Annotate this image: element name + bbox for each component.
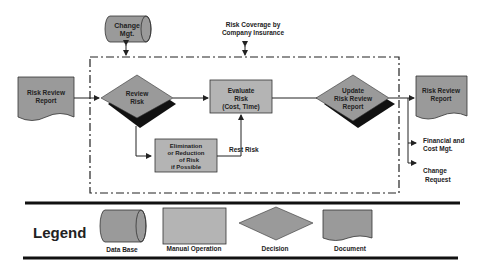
- legend-title: Legend: [33, 224, 86, 241]
- svg-text:(Cost, Time): (Cost, Time): [222, 103, 259, 111]
- svg-text:of Risk: of Risk: [179, 157, 200, 163]
- update-branch-line: [408, 98, 416, 163]
- svg-text:Report: Report: [343, 103, 365, 111]
- risk-review-flowchart: Change Mgt. Risk Coverage by Company Ins…: [0, 0, 485, 270]
- change-mgt-label-1: Change: [114, 22, 140, 30]
- svg-text:Risk: Risk: [234, 95, 248, 102]
- svg-text:Report: Report: [36, 97, 58, 105]
- svg-text:Company Insurance: Company Insurance: [222, 29, 285, 37]
- svg-text:Data Base: Data Base: [106, 246, 138, 253]
- svg-text:Manual Operation: Manual Operation: [167, 245, 222, 253]
- output-risk-review-report[interactable]: Risk Review Report: [416, 76, 467, 119]
- input-risk-review-report[interactable]: Risk Review Report: [18, 77, 74, 121]
- svg-text:Evaluate: Evaluate: [228, 87, 255, 94]
- svg-text:Financial and: Financial and: [423, 137, 465, 144]
- change-request-label: Change Request: [423, 167, 451, 184]
- svg-text:Risk Review: Risk Review: [334, 95, 373, 102]
- evaluate-risk-box[interactable]: Evaluate Risk (Cost, Time): [210, 80, 272, 113]
- svg-text:Elimination: Elimination: [170, 143, 203, 149]
- legend-database: Data Base: [100, 210, 146, 253]
- svg-text:or Reduction: or Reduction: [168, 150, 205, 156]
- update-report-decision[interactable]: Update Risk Review Report: [316, 75, 395, 128]
- risk-coverage-label: Risk Coverage by Company Insurance: [222, 21, 285, 37]
- legend-document: Document: [323, 210, 372, 252]
- svg-text:if Possible: if Possible: [171, 164, 202, 170]
- svg-text:Risk Review: Risk Review: [27, 89, 66, 96]
- svg-text:Review: Review: [126, 90, 149, 97]
- svg-text:Risk: Risk: [130, 98, 144, 105]
- svg-text:Risk Review: Risk Review: [422, 87, 461, 94]
- svg-text:Change: Change: [423, 167, 447, 175]
- svg-text:Request: Request: [425, 176, 451, 184]
- svg-text:Cost Mgt.: Cost Mgt.: [423, 145, 453, 153]
- financial-cost-mgt-label: Financial and Cost Mgt.: [423, 137, 465, 153]
- change-mgt-database[interactable]: Change Mgt.: [105, 16, 151, 42]
- legend-manual-operation: Manual Operation: [163, 208, 226, 253]
- svg-text:Decision: Decision: [261, 245, 288, 252]
- svg-text:Update: Update: [342, 87, 364, 95]
- rest-risk-label: Rest Risk: [229, 146, 259, 153]
- elimination-box[interactable]: Elimination or Reduction of Risk if Poss…: [155, 139, 217, 172]
- review-to-elimination-arrow: [136, 126, 151, 156]
- review-risk-decision[interactable]: Review Risk: [101, 75, 176, 128]
- legend-decision: Decision: [239, 207, 313, 252]
- svg-text:Report: Report: [431, 95, 453, 103]
- svg-text:Document: Document: [334, 245, 367, 252]
- change-mgt-label-2: Mgt.: [120, 30, 134, 38]
- svg-text:Risk Coverage by: Risk Coverage by: [226, 21, 281, 29]
